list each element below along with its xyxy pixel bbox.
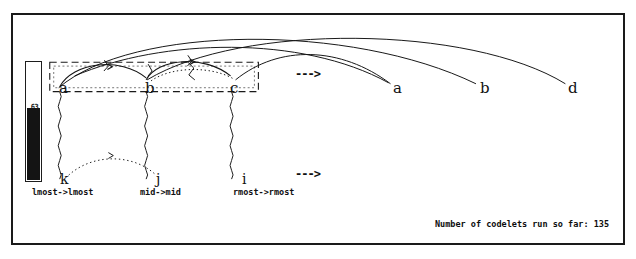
bond-a-to-b (60, 60, 146, 87)
letter-initial-b[interactable]: b (145, 81, 155, 96)
letter-target-a[interactable]: a (393, 81, 402, 96)
description-bond-k-j (69, 153, 155, 176)
rule-arrow-top: ---> (295, 68, 320, 80)
letter-target-b[interactable]: b (480, 81, 490, 96)
codelet-counter-status: Number of codelets run so far: 135 (435, 219, 609, 229)
rule-arrow-bottom: ---> (295, 168, 320, 180)
description-label-mid: mid->mid (140, 187, 181, 197)
description-label-rmost: rmost->rmost (233, 187, 294, 197)
temperature-thermometer[interactable]: 63 (25, 61, 42, 182)
temperature-value-label: 63 (26, 103, 43, 111)
description-link-b-j (145, 92, 148, 179)
temperature-fill-bar (27, 108, 40, 180)
letter-initial-a[interactable]: a (59, 81, 68, 96)
description-label-lmost: lmost->lmost (32, 187, 93, 197)
description-link-c-i (230, 92, 233, 179)
description-link-a-k (58, 92, 61, 179)
letter-target-d[interactable]: d (568, 81, 578, 96)
letter-initial-c[interactable]: c (230, 81, 238, 96)
workspace-diagram-canvas (13, 15, 623, 243)
workspace-window: 63 a b c a b d k j i lmost->lmost mid->m… (11, 13, 625, 245)
description-letter-k[interactable]: k (60, 172, 68, 186)
description-letter-i[interactable]: i (242, 172, 246, 186)
description-letter-j[interactable]: j (156, 172, 160, 186)
